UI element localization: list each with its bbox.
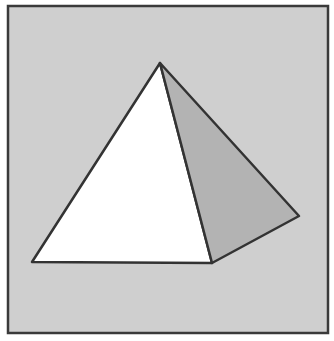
pyramid-diagram xyxy=(0,0,334,341)
